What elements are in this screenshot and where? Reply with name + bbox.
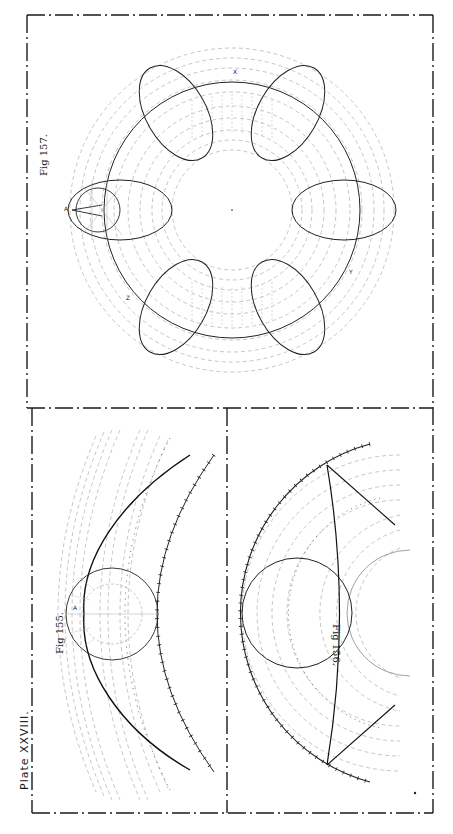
fig157-point-z: Z [126,294,130,301]
plate: Plate XXVIII. Fig 155. Fig 156. Fig 157.… [0,0,453,834]
frame [27,15,433,813]
fig157-point-a: A [64,205,68,212]
plate-drawing [0,0,453,834]
fig157-point-y: Y [349,268,353,275]
fig155-drawing [58,430,214,800]
plate-title: Plate XXVIII. [18,710,31,790]
fig156-label: Fig 156. [331,624,342,666]
fig157-drawing [68,48,396,372]
fig155-point-a: A [73,604,77,611]
fig156-drawing [240,444,416,794]
fig157-label: Fig 157. [38,134,49,176]
fig155-label: Fig 155. [54,612,65,654]
fig157-point-x: X [233,68,237,75]
